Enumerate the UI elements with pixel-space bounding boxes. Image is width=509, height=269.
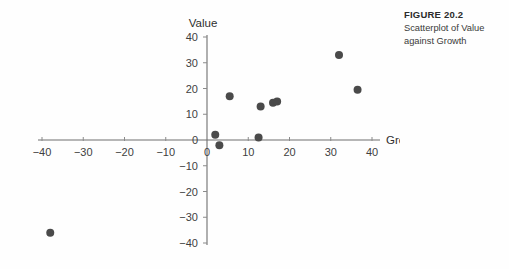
x-tick-label: 30: [325, 146, 337, 158]
y-tick-label: 0: [192, 134, 198, 146]
x-tick-label: 40: [366, 146, 378, 158]
data-point: [354, 86, 362, 94]
figure-number: FIGURE 20.2: [404, 8, 506, 21]
x-tick-label: −20: [115, 146, 134, 158]
chart-svg: −40−30−20−10010203040403020100−10−20−30−…: [0, 0, 400, 269]
y-tick-label: 40: [186, 31, 198, 43]
figure-caption: FIGURE 20.2 Scatterplot of Value against…: [404, 8, 506, 47]
data-point: [257, 103, 265, 111]
x-tick-label: 20: [283, 146, 295, 158]
data-point: [226, 92, 234, 100]
figure-description-line-1: Scatterplot of Value: [404, 22, 506, 35]
y-tick-label: −20: [179, 186, 198, 198]
y-tick-label: 10: [186, 108, 198, 120]
data-point: [255, 133, 263, 141]
data-point: [211, 131, 219, 139]
data-point: [273, 97, 281, 105]
data-point: [46, 229, 54, 237]
figure-description-line-2: against Growth: [404, 35, 506, 48]
x-axis-title: Growth: [386, 134, 400, 146]
data-point: [335, 51, 343, 59]
x-tick-label: 0: [204, 146, 210, 158]
y-tick-label: −10: [179, 160, 198, 172]
figure-page: −40−30−20−10010203040403020100−10−20−30−…: [0, 0, 509, 269]
y-axis-title: Value: [189, 17, 218, 29]
y-tick-label: −40: [179, 237, 198, 249]
y-tick-label: 30: [186, 57, 198, 69]
y-tick-label: −30: [179, 211, 198, 223]
y-tick-label: 20: [186, 83, 198, 95]
x-tick-label: −30: [74, 146, 93, 158]
x-tick-label: −10: [156, 146, 175, 158]
data-point: [215, 141, 223, 149]
x-tick-label: −40: [33, 146, 52, 158]
scatterplot-chart: −40−30−20−10010203040403020100−10−20−30−…: [0, 0, 400, 269]
x-tick-label: 10: [242, 146, 254, 158]
